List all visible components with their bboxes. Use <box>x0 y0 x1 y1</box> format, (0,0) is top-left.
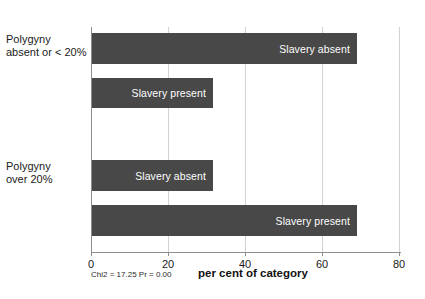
chi-square-annotation: Chi2 = 17.25 Pr = 0.00 <box>91 270 172 279</box>
gridline-80 <box>399 27 400 252</box>
bar-polygyny-low-slavery-absent[interactable]: Slavery absent <box>91 33 357 64</box>
category-label-polygyny-low: Polygyny absent or < 20% <box>6 33 88 59</box>
chart-figure: Slavery absent Slavery present Slavery a… <box>0 0 425 299</box>
bar-label: Slavery absent <box>279 43 350 55</box>
x-tick-80 <box>399 252 400 256</box>
x-tick-60 <box>322 252 323 256</box>
x-tick-label-0: 0 <box>88 258 94 270</box>
category-label-polygyny-high: Polygyny over 20% <box>6 160 88 186</box>
bar-polygyny-high-slavery-absent[interactable]: Slavery absent <box>91 160 213 191</box>
x-axis-title: per cent of category <box>198 267 308 279</box>
x-axis-line <box>91 252 401 253</box>
x-tick-0 <box>91 252 92 256</box>
y-axis-line <box>91 27 92 252</box>
x-tick-20 <box>168 252 169 256</box>
x-tick-label-80: 80 <box>393 258 405 270</box>
bar-polygyny-low-slavery-present[interactable]: Slavery present <box>91 78 213 108</box>
x-tick-label-60: 60 <box>316 258 328 270</box>
plot-area: Slavery absent Slavery present Slavery a… <box>91 27 400 252</box>
bar-label: Slavery absent <box>135 170 206 182</box>
bar-label: Slavery present <box>132 87 206 99</box>
x-tick-label-20: 20 <box>162 258 174 270</box>
x-tick-40 <box>245 252 246 256</box>
bar-label: Slavery present <box>276 215 350 227</box>
bar-polygyny-high-slavery-present[interactable]: Slavery present <box>91 205 357 236</box>
